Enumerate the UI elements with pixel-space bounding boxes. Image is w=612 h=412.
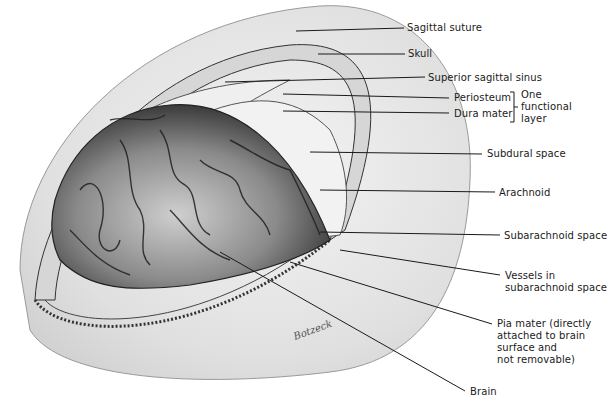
label-one-functional-layer: One functional layer — [521, 89, 572, 125]
pia-line: not removable) — [497, 354, 591, 366]
label-sagittal-suture: Sagittal suture — [407, 22, 482, 34]
pia-line: attached to brain — [497, 330, 591, 342]
group-note-line: One — [521, 89, 572, 101]
label-arachnoid: Arachnoid — [499, 187, 550, 199]
label-superior-sagittal-sinus: Superior sagittal sinus — [428, 72, 542, 84]
pia-line: surface and — [497, 342, 591, 354]
label-skull: Skull — [408, 48, 432, 60]
group-note-line: layer — [521, 113, 572, 125]
vessels-line: Vessels in — [505, 270, 607, 282]
label-brain: Brain — [470, 386, 497, 398]
pia-line: Pia mater (directly — [497, 318, 591, 330]
group-note-line: functional — [521, 101, 572, 113]
label-subdural-space: Subdural space — [487, 148, 566, 160]
meninges-diagram: Botzeck Sagittal suture Skull Superior s… — [0, 0, 612, 412]
label-dura-mater: Dura mater — [454, 108, 513, 120]
label-pia-mater: Pia mater (directly attached to brain su… — [497, 318, 591, 366]
label-vessels-subarachnoid: Vessels in subarachnoid space — [505, 270, 607, 294]
label-periosteum: Periosteum — [454, 92, 511, 104]
label-subarachnoid-space: Subarachnoid space — [504, 230, 607, 242]
vessels-line: subarachnoid space — [505, 282, 607, 294]
